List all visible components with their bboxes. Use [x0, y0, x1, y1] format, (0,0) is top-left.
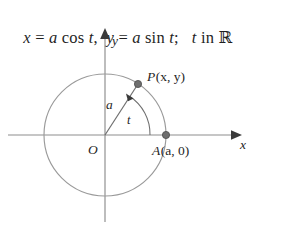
- point-label-P-coords: (x, y): [156, 69, 185, 84]
- circle-diagram: y x O P(x, y) A(a, 0) a t: [0, 18, 303, 230]
- origin-label: O: [88, 142, 98, 157]
- angle-arc-t: [130, 96, 151, 135]
- point-marker-A: [162, 131, 169, 138]
- point-label-A-prefix: A: [151, 143, 161, 158]
- radius-length-label: a: [106, 97, 113, 112]
- point-marker-P: [134, 80, 141, 87]
- y-axis-label: y: [110, 33, 118, 48]
- x-axis-label: x: [239, 137, 246, 152]
- angle-label-t: t: [127, 113, 131, 127]
- point-label-P: P(x, y): [146, 69, 185, 84]
- y-axis-arrowhead: [100, 28, 110, 39]
- point-label-A: A(a, 0): [151, 143, 189, 158]
- parametric-circle-figure: x = a cos t, y = a sin t; t in ℝ y x O P…: [0, 0, 303, 230]
- point-label-A-coords: (a, 0): [161, 143, 189, 158]
- point-label-P-prefix: P: [146, 69, 155, 84]
